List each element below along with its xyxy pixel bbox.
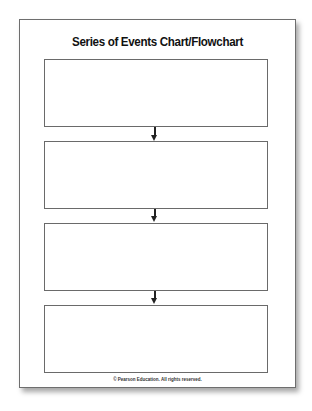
event-box-3[interactable] (44, 223, 268, 291)
worksheet-page: Series of Events Chart/Flowchart © Pears… (19, 19, 296, 388)
event-box-1[interactable] (44, 59, 268, 127)
arrow-down-icon (154, 291, 156, 305)
copyright-footer: © Pearson Education. All rights reserved… (20, 377, 295, 382)
arrow-down-icon (154, 127, 156, 142)
arrow-down-icon (154, 209, 156, 223)
event-box-4[interactable] (44, 305, 268, 373)
page-title: Series of Events Chart/Flowchart (39, 34, 276, 49)
event-box-2[interactable] (44, 141, 268, 209)
